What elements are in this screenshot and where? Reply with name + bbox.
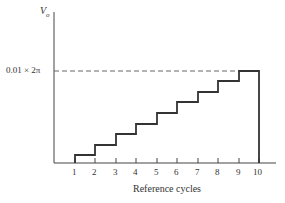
x-tick-label: 1 [72,167,77,177]
x-tick-label: 5 [154,167,159,177]
x-tick-label: 4 [133,167,138,177]
staircase-chart [0,0,285,203]
x-tick-label: 7 [195,167,200,177]
x-tick-label: 6 [174,167,179,177]
staircase-line [75,71,259,163]
x-tick-label: 3 [113,167,118,177]
reference-label: 0.01 × 2π [6,65,40,75]
x-tick-label: 10 [253,167,262,177]
x-ticks [75,158,259,163]
x-tick-label: 8 [215,167,220,177]
x-tick-label: 2 [92,167,97,177]
x-tick-label: 9 [236,167,241,177]
x-axis-label: Reference cycles [133,183,201,194]
y-axis-label: Vo [40,5,50,19]
